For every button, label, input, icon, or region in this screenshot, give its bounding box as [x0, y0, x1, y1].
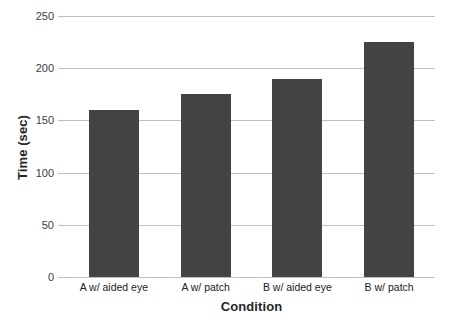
x-tick-label: A w/ aided eye: [68, 281, 160, 293]
y-tick-label: 100: [36, 167, 54, 179]
y-tick-label: 0: [48, 271, 54, 283]
bar: [272, 79, 322, 277]
y-tick-mark: [58, 16, 68, 17]
y-tick-label: 250: [36, 10, 54, 22]
x-tick-label: A w/ patch: [160, 281, 252, 293]
y-tick-label: 200: [36, 62, 54, 74]
x-tick-label: B w/ aided eye: [252, 281, 344, 293]
plot-area: 050100150200250: [68, 16, 435, 277]
y-tick-mark: [58, 277, 68, 278]
bar-chart-figure: Time (sec) 050100150200250 Condition A w…: [0, 0, 451, 329]
x-axis-title: Condition: [68, 299, 435, 314]
y-tick-label: 150: [36, 114, 54, 126]
y-tick-mark: [58, 173, 68, 174]
y-tick-mark: [58, 225, 68, 226]
bar: [364, 42, 414, 277]
y-axis-title: Time (sec): [15, 88, 30, 208]
gridline: [68, 16, 435, 17]
y-tick-label: 50: [42, 219, 54, 231]
y-tick-mark: [58, 68, 68, 69]
gridline: [68, 277, 435, 278]
bar: [89, 110, 139, 277]
bar: [181, 94, 231, 277]
x-tick-label: B w/ patch: [343, 281, 435, 293]
y-tick-mark: [58, 120, 68, 121]
